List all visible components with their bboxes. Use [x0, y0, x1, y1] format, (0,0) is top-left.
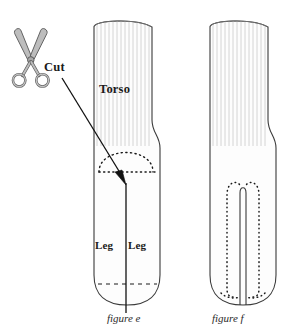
figure-f-group	[210, 20, 276, 305]
sock-outline-f	[210, 21, 276, 305]
torso-label: Torso	[99, 82, 130, 97]
figure-f-caption: figure f	[212, 312, 244, 324]
figure-e-group	[62, 20, 160, 313]
leg-label-right: Leg	[128, 239, 146, 251]
diagram-canvas	[0, 0, 285, 334]
leg-label-left: Leg	[95, 239, 113, 251]
cut-label: Cut	[44, 60, 65, 75]
scissors-icon	[13, 29, 49, 87]
sock-cutting-diagram: Cut Torso Leg Leg figure e figure f	[0, 0, 285, 334]
figure-e-caption: figure e	[107, 312, 141, 324]
